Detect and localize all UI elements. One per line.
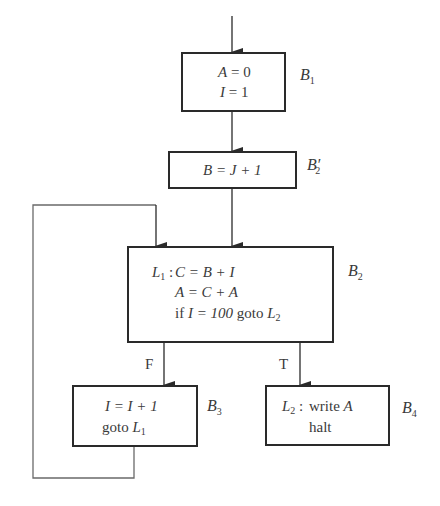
- b4-stmt-1: write A: [309, 397, 353, 415]
- b1-stmt-1: A = 0: [218, 63, 251, 81]
- b4-stmt-2: halt: [309, 418, 332, 436]
- control-flow-diagram: A = 0 I = 1 B1 B = J + 1 B′2 L1 : C = B …: [0, 0, 440, 506]
- block-b3: I = I + 1 goto L1: [72, 385, 198, 447]
- b2prime-stmt-1: B = J + 1: [203, 161, 262, 179]
- block-b4: L2 : write A halt: [265, 385, 390, 446]
- block-b2prime: B = J + 1: [168, 151, 297, 189]
- edge-label-true: T: [279, 356, 288, 373]
- b2-stmt-1: C = B + I: [175, 263, 234, 281]
- b2-stmt-2: A = C + A: [175, 283, 238, 301]
- b2-entry-label: L1 :: [152, 263, 173, 286]
- b1-stmt-1-lhs: A: [218, 64, 227, 80]
- label-b4: B4: [402, 399, 417, 419]
- b1-stmt-1-rhs: 0: [243, 64, 251, 80]
- label-b2: B2: [348, 262, 363, 282]
- b3-stmt-2: goto L1: [102, 418, 146, 441]
- b1-stmt-2-op: =: [225, 84, 241, 100]
- label-b2prime: B′2: [307, 156, 320, 176]
- b4-entry-label: L2 :: [282, 397, 303, 420]
- b1-stmt-2: I = 1: [220, 83, 248, 101]
- b1-stmt-2-rhs: 1: [241, 84, 249, 100]
- b3-stmt-1: I = I + 1: [105, 397, 158, 415]
- label-b3: B3: [207, 397, 222, 417]
- block-b1: A = 0 I = 1: [181, 52, 286, 112]
- label-b1: B1: [300, 66, 315, 86]
- b2-stmt-3: if I = 100 goto L2: [175, 304, 281, 327]
- block-b2: L1 : C = B + I A = C + A if I = 100 goto…: [127, 246, 334, 343]
- edge-label-false: F: [145, 356, 153, 373]
- b1-stmt-1-op: =: [227, 64, 243, 80]
